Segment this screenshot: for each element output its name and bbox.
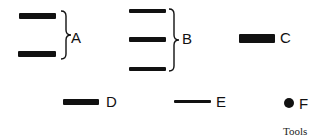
group-d-bar bbox=[63, 99, 99, 105]
group-c-bar bbox=[239, 34, 275, 43]
group-b-bar-3 bbox=[129, 67, 166, 71]
group-e-label: E bbox=[216, 94, 226, 109]
group-b-label: B bbox=[182, 31, 192, 46]
tools-diagram: A B C D E F Tools bbox=[0, 0, 325, 140]
group-f-label: F bbox=[299, 96, 308, 111]
group-c-label: C bbox=[280, 30, 291, 45]
figure-caption: Tools bbox=[283, 126, 307, 137]
group-a-bar-1 bbox=[19, 13, 56, 19]
group-b-bar-1 bbox=[129, 9, 166, 13]
group-b-brace-icon bbox=[168, 8, 180, 72]
group-a-bar-2 bbox=[18, 51, 56, 57]
group-d-label: D bbox=[106, 94, 117, 109]
group-b-bar-2 bbox=[129, 37, 166, 42]
group-f-dot-icon bbox=[284, 98, 294, 108]
group-e-bar bbox=[174, 100, 211, 103]
group-a-label: A bbox=[71, 30, 81, 45]
